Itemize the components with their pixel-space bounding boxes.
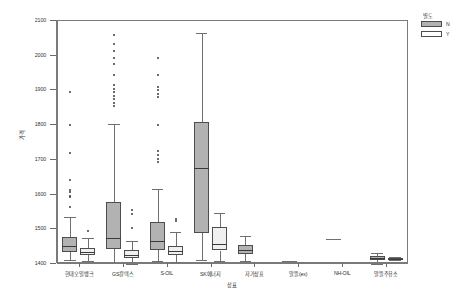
boxplot-cap-high-Y — [82, 238, 94, 239]
legend-label-y: Y — [446, 31, 449, 37]
x-axis-line — [57, 263, 408, 264]
x-tick-label: NH-OIL — [334, 270, 350, 276]
boxplot-flat-N — [326, 239, 341, 240]
boxplot-outlier-N — [157, 124, 159, 126]
boxplot-median-Y — [388, 259, 403, 260]
boxplot-outlier-N — [157, 158, 159, 160]
boxplot-box-N — [194, 122, 209, 233]
boxplot-box-N — [106, 202, 121, 250]
y-tick — [50, 89, 56, 90]
y-tick — [50, 263, 56, 264]
boxplot-outlier-N — [157, 89, 159, 91]
boxplot-cap-low-Y — [214, 261, 226, 262]
boxplot-outlier-N — [113, 105, 115, 107]
boxplot-flat-N — [282, 261, 297, 262]
boxplot-whisker-high-N — [114, 124, 115, 201]
boxplot-cap-high-N — [152, 189, 164, 190]
boxplot-whisker-high-Y — [88, 238, 89, 248]
x-tick — [298, 263, 299, 267]
boxplot-cap-high-N — [108, 124, 120, 125]
boxplot-outlier-N — [113, 84, 115, 86]
boxplot-whisker-high-Y — [132, 241, 133, 250]
boxplot-outlier-Y — [131, 227, 133, 229]
boxplot-whisker-low-N — [70, 252, 71, 260]
boxplot-whisker-high-N — [202, 33, 203, 122]
boxplot-outlier-N — [113, 102, 115, 104]
boxplot-cap-high-N — [64, 217, 76, 218]
y-tick — [50, 159, 56, 160]
boxplot-whisker-high-N — [70, 217, 71, 237]
y-tick — [50, 55, 56, 56]
boxplot-cap-low-Y — [389, 260, 401, 261]
boxplot-whisker-low-N — [158, 250, 159, 261]
boxplot-outlier-N — [113, 98, 115, 100]
y-tick — [50, 194, 56, 195]
x-tick — [254, 263, 255, 267]
boxplot-outlier-N — [157, 150, 159, 152]
legend-title: 별도 — [423, 12, 433, 19]
boxplot-cap-high-N — [240, 236, 252, 237]
boxplot-outlier-N — [69, 124, 71, 126]
boxplot-whisker-high-N — [245, 236, 246, 245]
x-axis-title: 상표 — [227, 281, 237, 289]
legend-swatch-n — [421, 21, 442, 27]
boxplot-outlier-Y — [87, 230, 89, 232]
y-axis-title: 가격 — [18, 130, 26, 140]
x-tick — [79, 263, 80, 267]
boxplot-outlier-N — [157, 86, 159, 88]
x-tick — [167, 263, 168, 267]
boxplot-outlier-N — [157, 154, 159, 156]
boxplot-median-Y — [212, 244, 227, 245]
legend-swatch-y — [421, 31, 442, 37]
y-tick-label: 1500 — [0, 225, 46, 231]
boxplot-outlier-N — [69, 191, 71, 193]
boxplot-whisker-low-N — [114, 249, 115, 263]
boxplot-median-Y — [124, 255, 139, 256]
boxplot-outlier-N — [157, 96, 159, 98]
boxplot-outlier-Y — [175, 220, 177, 222]
boxplot-cap-high-N — [196, 33, 208, 34]
x-tick — [342, 263, 343, 267]
boxplot-outlier-Y — [131, 209, 133, 211]
boxplot-outlier-N — [113, 63, 115, 65]
boxplot-cap-high-Y — [126, 241, 138, 242]
boxplot-outlier-N — [113, 57, 115, 59]
boxplot-cap-high-Y — [170, 232, 182, 233]
x-tick — [386, 263, 387, 267]
x-tick-label: 알뜰주유소 — [374, 270, 398, 277]
y-tick-label: 2000 — [0, 52, 46, 58]
boxplot-median-N — [62, 246, 77, 247]
boxplot-box-N — [62, 237, 77, 252]
y-tick-label: 1700 — [0, 156, 46, 162]
boxplot-outlier-Y — [175, 218, 177, 220]
boxplot-median-Y — [80, 252, 95, 253]
boxplot-cap-high-Y — [214, 213, 226, 214]
boxplot-outlier-N — [113, 95, 115, 97]
boxplot-outlier-N — [113, 43, 115, 45]
boxplot-outlier-N — [113, 50, 115, 52]
y-tick-label: 1800 — [0, 121, 46, 127]
boxplot-outlier-N — [113, 88, 115, 90]
boxplot-outlier-N — [113, 34, 115, 36]
boxplot-cap-high-N — [371, 253, 383, 254]
boxplot-whisker-high-N — [158, 189, 159, 222]
boxplot-outlier-N — [157, 161, 159, 163]
boxplot-outlier-N — [69, 179, 71, 181]
legend-label-n: N — [446, 21, 450, 27]
x-tick-label: S-OIL — [160, 270, 173, 276]
boxplot-box-Y — [212, 227, 227, 251]
boxplot-outlier-Y — [131, 213, 133, 215]
boxplot-whisker-low-Y — [88, 255, 89, 262]
y-tick-label: 1900 — [0, 86, 46, 92]
boxplot-whisker-low-Y — [176, 255, 177, 262]
boxplot-whisker-high-Y — [176, 232, 177, 245]
x-tick-label: 현대오일뱅크 — [65, 270, 94, 277]
boxplot-outlier-N — [69, 206, 71, 208]
boxplot-median-N — [370, 258, 385, 259]
boxplot-cap-low-N — [64, 260, 76, 261]
plot-area — [57, 20, 408, 263]
y-tick — [50, 228, 56, 229]
y-tick-label: 1600 — [0, 191, 46, 197]
boxplot-whisker-low-N — [202, 233, 203, 260]
x-tick-label: 자가상표 — [245, 270, 264, 277]
